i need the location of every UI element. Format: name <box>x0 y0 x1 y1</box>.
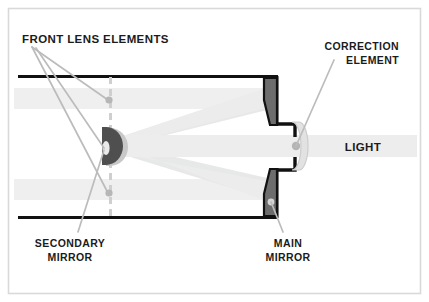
label-front-lens-elements: FRONT LENS ELEMENTS <box>22 33 169 45</box>
diagram-canvas: FRONT LENS ELEMENTS CORRECTION ELEMENT L… <box>0 0 429 302</box>
label-correction-element-line1: CORRECTION <box>324 40 399 52</box>
front-lens-lower-dot <box>105 189 112 196</box>
label-correction-element-line2: ELEMENT <box>346 54 399 66</box>
label-light: LIGHT <box>345 141 382 153</box>
front-lens-upper-dot <box>105 96 112 103</box>
label-secondary-mirror-line2: MIRROR <box>48 251 93 263</box>
telescope-diagram: FRONT LENS ELEMENTS CORRECTION ELEMENT L… <box>0 0 429 302</box>
label-secondary-mirror-line1: SECONDARY <box>35 237 105 249</box>
axial-beam-inner <box>117 135 282 157</box>
label-main-mirror-line1: MAIN <box>274 237 302 249</box>
label-main-mirror-line2: MIRROR <box>266 251 311 263</box>
